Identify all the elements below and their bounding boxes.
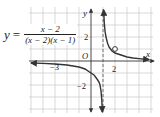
equation-lhs: y [4,27,10,43]
equation-numerator: x − 2 [39,24,62,34]
function-graph: y x O 2 −3 2 −2 [0,0,160,117]
curve-right-branch [104,10,149,60]
x-axis-label: x [145,49,150,59]
y-axis-label: y [82,8,87,18]
y-tick-label-neg2: −2 [77,81,86,91]
origin-label: O [82,51,88,61]
x-tick-label-neg3: −3 [50,62,59,72]
hole-point [113,47,118,52]
equation-denominator: (x − 2)(x − 1) [24,34,76,45]
y-tick-label-2: 2 [84,32,88,42]
equation-equals: = [13,27,20,43]
equation: y = x − 2 (x − 2)(x − 1) [4,24,77,45]
equation-fraction: x − 2 (x − 2)(x − 1) [23,24,77,45]
x-tick-label-2: 2 [112,64,116,74]
